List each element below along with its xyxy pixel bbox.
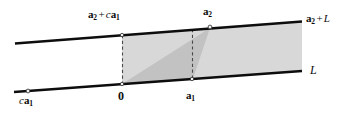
label-a1: a1 [186, 90, 195, 101]
label-c-a1: ca1 [19, 95, 33, 106]
label-a2: a2 [203, 6, 212, 17]
point-a2 [208, 25, 212, 29]
point-a1 [190, 77, 193, 80]
geometry-diagram [0, 0, 340, 114]
point-origin [120, 82, 123, 85]
label-a2-plus-L: a2+L [306, 13, 330, 24]
label-a2-plus-c-a1: a2+ca1 [88, 9, 120, 20]
point-a2-plus-c-a1 [120, 33, 123, 36]
figure-canvas: a2+ca1 a2 a2+L L ca1 0 a1 [0, 0, 340, 114]
point-c-a1 [26, 89, 30, 93]
label-L: L [310, 64, 317, 76]
label-origin: 0 [118, 90, 124, 102]
